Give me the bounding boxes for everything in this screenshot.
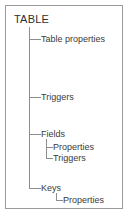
tree-node-fields-properties: Properties	[53, 142, 94, 152]
connector-keys-properties	[56, 200, 63, 201]
trunk-connector	[29, 27, 30, 188]
tree-node-table-properties: Table properties	[41, 34, 105, 44]
connector-keys	[29, 188, 41, 189]
connector-fields-triggers	[46, 158, 53, 159]
tree-node-fields: Fields	[41, 129, 65, 139]
tree-node-keys: Keys	[41, 183, 61, 193]
connector-fields-properties	[46, 147, 53, 148]
diagram-frame: TABLE Table properties Triggers Fields P…	[5, 5, 123, 209]
subtrunk-connector-fields	[46, 139, 47, 159]
connector-triggers	[29, 97, 41, 98]
connector-fields	[29, 134, 41, 135]
tree-node-root: TABLE	[14, 13, 49, 25]
tree-node-fields-triggers: Triggers	[53, 153, 86, 163]
tree-node-triggers: Triggers	[41, 92, 74, 102]
tree-node-keys-properties: Properties	[63, 195, 104, 205]
connector-table-properties	[29, 39, 41, 40]
